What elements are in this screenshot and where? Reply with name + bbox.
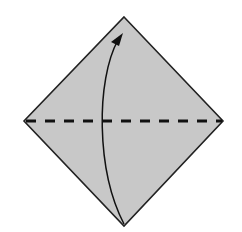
diagram-svg [0, 0, 242, 232]
origami-diagram: Valley fold: fold bottom corner up to to… [0, 0, 242, 232]
